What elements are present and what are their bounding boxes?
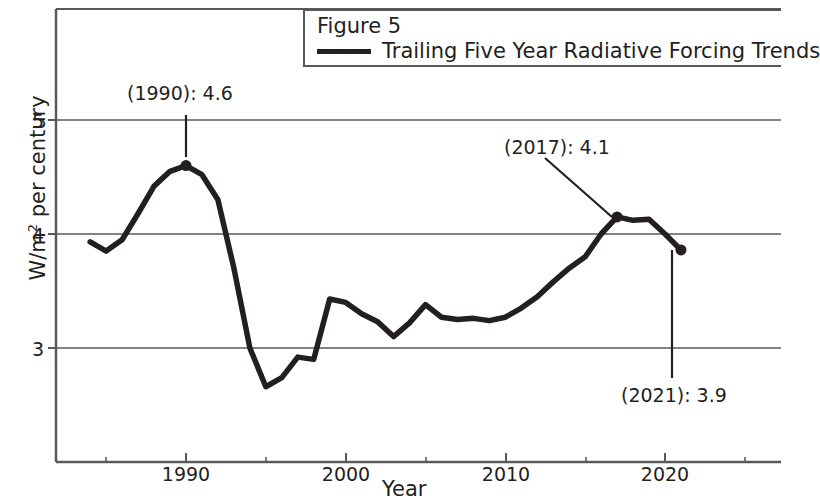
annotation-2017: (2017): 4.1 xyxy=(504,136,610,158)
data-point-marker-1990 xyxy=(181,160,192,171)
legend-title: Figure 5 xyxy=(317,14,401,38)
legend-entry-label: Trailing Five Year Radiative Forcing Tre… xyxy=(382,39,820,63)
y-tick-label-3: 3 xyxy=(20,338,44,360)
y-axis-title-main: W/m xyxy=(26,232,50,280)
x-axis-title: Year xyxy=(382,477,426,501)
y-axis-title: W/m2 per century xyxy=(26,88,50,288)
x-tick-label-2000: 2000 xyxy=(311,463,381,485)
legend-line-swatch-icon xyxy=(317,49,371,54)
legend: Figure 5 Trailing Five Year Radiative Fo… xyxy=(303,9,781,67)
x-tick-label-2020: 2020 xyxy=(630,463,700,485)
x-tick-label-1990: 1990 xyxy=(151,463,221,485)
leader-line-2017 xyxy=(545,158,612,217)
x-tick-label-2010: 2010 xyxy=(471,463,541,485)
data-point-markers xyxy=(181,160,687,255)
data-point-marker-2021 xyxy=(675,244,686,255)
x-axis-ticks xyxy=(106,453,745,462)
y-axis-title-superscript: 2 xyxy=(25,224,40,232)
y-axis-title-tail: per century xyxy=(26,95,50,224)
annotation-2021: (2021): 3.9 xyxy=(621,384,727,406)
legend-entry-trailing-five-year: Trailing Five Year Radiative Forcing Tre… xyxy=(317,39,820,63)
annotation-1990: (1990): 4.6 xyxy=(127,82,233,104)
data-point-marker-2017 xyxy=(612,211,623,222)
